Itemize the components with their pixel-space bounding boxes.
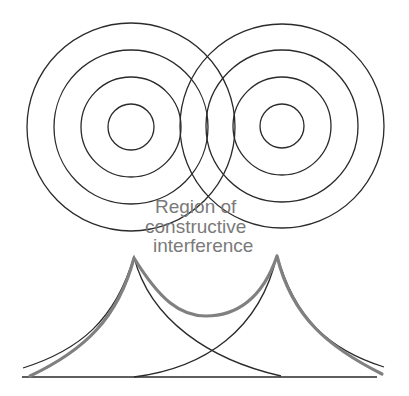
right-source-wavefront-2 (233, 77, 331, 175)
label-line-1: Region of (155, 196, 237, 217)
left-source-wavefront-2 (81, 77, 181, 177)
combined-intensity-curve (30, 256, 382, 376)
constructive-interference-label: Region of constructive interference (145, 196, 253, 256)
right-source-wavefront-1 (260, 104, 304, 148)
interference-diagram: Region of constructive interference (0, 0, 409, 396)
right-source-wavefront-3 (206, 50, 358, 202)
label-line-2: constructive (145, 216, 246, 237)
label-line-3: interference (153, 235, 253, 256)
right-wave-curve (134, 255, 384, 377)
left-source-wavefront-3 (54, 50, 208, 204)
left-source-wavefront-1 (108, 104, 154, 150)
intensity-plot (22, 255, 384, 377)
